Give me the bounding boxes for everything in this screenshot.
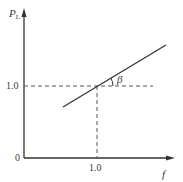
angle-label: β xyxy=(116,73,123,85)
y-tick-label: 1.0 xyxy=(6,80,19,91)
y-axis-arrow-icon xyxy=(22,8,27,17)
x-tick-label: 1.0 xyxy=(89,162,102,173)
x-axis-arrow-icon xyxy=(166,156,175,161)
origin-label: 0 xyxy=(15,152,20,163)
data-line xyxy=(63,45,166,107)
chart-canvas: PL f 0 1.0 1.0 β xyxy=(0,0,183,182)
y-axis-label: PL xyxy=(8,7,20,21)
angle-arc xyxy=(111,78,113,86)
x-axis-label: f xyxy=(162,168,167,180)
